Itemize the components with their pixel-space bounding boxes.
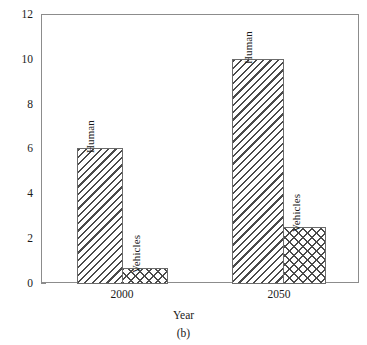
y-tick-label-2: 2 (27, 230, 33, 246)
bar-chart-figure: Population (billions) 0 2 4 6 8 10 12 Hu… (0, 0, 367, 345)
figure-caption: (b) (0, 327, 367, 339)
y-tick-mark-0 (41, 283, 46, 284)
y-tick-label-4: 4 (27, 185, 33, 201)
bar-label-vehicles-2050: Vehicles (290, 194, 302, 232)
bar-human-2000 (77, 148, 123, 284)
y-tick-label-10: 10 (22, 51, 34, 67)
bar-label-vehicles-2000: Vehicles (130, 235, 142, 273)
y-tick-label-8: 8 (27, 96, 33, 112)
x-tick-label-2000: 2000 (82, 288, 162, 300)
bar-human-2050 (232, 59, 284, 284)
bar-vehicles-2050 (283, 227, 326, 284)
bar-vehicles-2000 (122, 268, 168, 284)
x-tick-label-2050: 2050 (239, 288, 319, 300)
x-axis-title: Year (0, 309, 367, 321)
y-tick-label-0: 0 (27, 275, 33, 291)
y-tick-label-6: 6 (27, 140, 33, 156)
y-tick-label-12: 12 (22, 6, 34, 22)
bar-label-human-2050: Human (242, 31, 254, 64)
bar-label-human-2000: Human (84, 120, 96, 153)
